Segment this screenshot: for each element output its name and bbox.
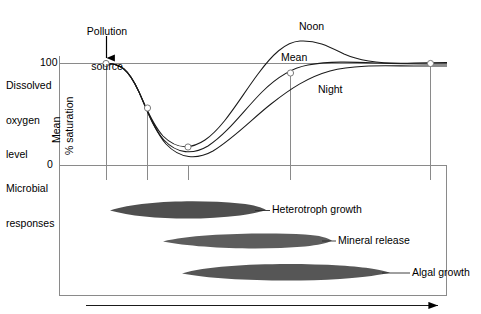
figure-root: Pollution source Dissolved oxygen level … (0, 0, 481, 314)
band-label-heterotroph-growth: Heterotroph growth (272, 204, 362, 216)
band-shape-heterotroph-growth (110, 201, 266, 218)
marker-point-3 (185, 144, 191, 150)
curve-mean (106, 62, 447, 152)
y-tick-0: 0 (47, 159, 53, 171)
band-label-algal-growth: Algal growth (412, 267, 470, 279)
dissolved-oxygen-line1: Dissolved (6, 80, 52, 92)
curve-label-night: Night (318, 84, 343, 96)
pollution-source-line2: source (74, 61, 140, 73)
curve-label-mean: Mean (281, 52, 307, 64)
diagram-canvas (0, 0, 481, 314)
curve-label-noon: Noon (299, 21, 324, 33)
marker-point-2 (144, 105, 150, 111)
microbial-responses-line2: responses (6, 218, 54, 230)
pollution-source-line1: Pollution (74, 26, 140, 38)
marker-point-4 (287, 70, 293, 76)
dissolved-oxygen-line3: level (6, 149, 52, 161)
y-axis-label-saturation: % saturation (63, 97, 75, 155)
band-shape-algal-growth (182, 264, 390, 281)
microbial-responses-label: Microbial responses (6, 160, 54, 252)
dissolved-oxygen-line2: oxygen (6, 115, 52, 127)
curve-night (106, 64, 447, 157)
band-shape-mineral-release (163, 234, 332, 249)
marker-point-5 (427, 60, 433, 66)
y-tick-100: 100 (40, 57, 58, 69)
y-axis-label-mean: Mean (50, 117, 62, 143)
band-label-mineral-release: Mineral release (338, 235, 410, 247)
pollution-source-label: Pollution source (74, 3, 140, 95)
microbial-responses-line1: Microbial (6, 183, 54, 195)
